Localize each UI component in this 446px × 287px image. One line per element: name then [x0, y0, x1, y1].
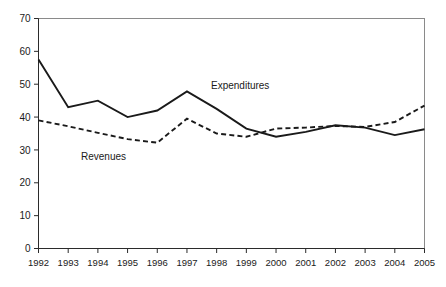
line-chart: 0102030405060701992199319941995199619971…: [0, 0, 446, 287]
chart-canvas: 0102030405060701992199319941995199619971…: [0, 0, 446, 287]
x-tick-label: 2001: [295, 257, 316, 268]
x-tick-label: 1999: [236, 257, 257, 268]
x-tick-label: 1993: [58, 257, 79, 268]
x-tick-label: 2002: [325, 257, 346, 268]
series-line-expenditures: [39, 60, 425, 137]
x-tick-label: 1994: [87, 257, 108, 268]
x-tick-label: 2003: [355, 257, 376, 268]
x-tick-label: 2004: [384, 257, 405, 268]
y-tick-label: 0: [25, 243, 31, 254]
y-tick-label: 70: [19, 13, 31, 24]
y-tick-label: 60: [19, 46, 31, 57]
y-tick-label: 30: [19, 145, 31, 156]
x-tick-label: 1995: [117, 257, 138, 268]
x-tick-label: 1997: [176, 257, 197, 268]
x-tick-label: 1998: [206, 257, 227, 268]
x-tick-label: 2000: [265, 257, 286, 268]
y-tick-label: 10: [19, 210, 31, 221]
plot-frame: [39, 19, 425, 249]
x-tick-label: 2005: [414, 257, 435, 268]
x-tick-label: 1992: [28, 257, 49, 268]
y-tick-label: 40: [19, 112, 31, 123]
series-line-revenues: [39, 106, 425, 143]
y-tick-label: 50: [19, 79, 31, 90]
series-annotation-revenues: Revenues: [81, 151, 126, 162]
x-tick-label: 1996: [147, 257, 168, 268]
series-annotation-expenditures: Expenditures: [211, 80, 269, 91]
y-tick-label: 20: [19, 177, 31, 188]
